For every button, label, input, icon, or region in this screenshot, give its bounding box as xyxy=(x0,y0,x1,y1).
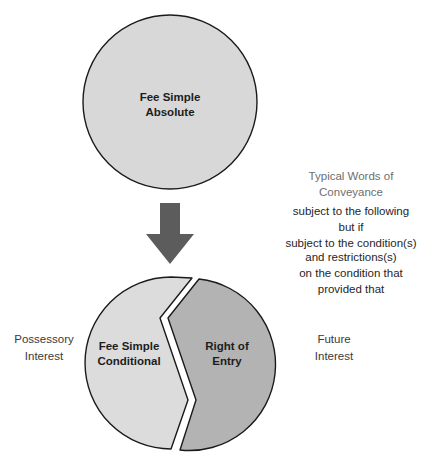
fee-simple-conditional-label-line1: Fee Simple xyxy=(99,340,160,352)
legend-heading-line2: Conveyance xyxy=(319,186,383,198)
legend-phrase-1: but if xyxy=(339,221,365,233)
right-of-entry-label-line2: Entry xyxy=(212,355,242,367)
legend-phrase-5: provided that xyxy=(318,283,385,295)
diagram-root: Fee Simple Absolute Fee Simple Condition… xyxy=(0,0,437,460)
diagram-canvas: Fee Simple Absolute Fee Simple Condition… xyxy=(0,0,437,460)
possessory-interest-label-line2: Interest xyxy=(25,350,64,362)
fee-simple-absolute-label-line2: Absolute xyxy=(145,106,194,118)
legend-heading-line1: Typical Words of xyxy=(309,170,395,182)
legend-phrase-4: on the condition that xyxy=(299,267,403,279)
fee-simple-conditional-label-line2: Conditional xyxy=(97,355,160,367)
down-arrow-icon xyxy=(146,203,194,264)
legend-phrase-2: subject to the condition(s) xyxy=(285,237,416,249)
possessory-interest-label-line1: Possessory xyxy=(14,333,74,345)
right-of-entry-label-line1: Right of xyxy=(205,340,249,352)
future-interest-label-line2: Interest xyxy=(315,350,354,362)
future-interest-label-line1: Future xyxy=(317,333,350,345)
fee-simple-absolute-label-line1: Fee Simple xyxy=(140,91,201,103)
legend-phrase-3: and restrictions(s) xyxy=(305,251,397,263)
legend-phrase-0: subject to the following xyxy=(293,205,409,217)
